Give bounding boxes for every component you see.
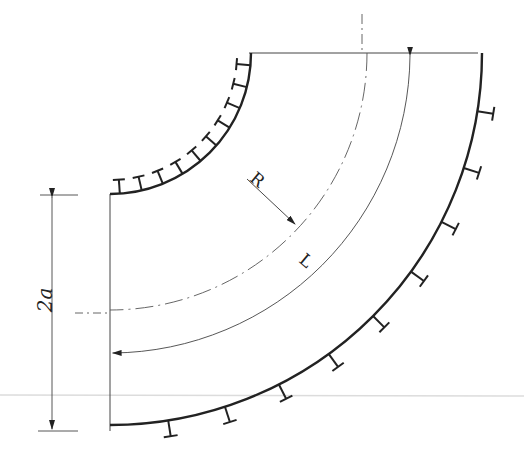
centerline-arc [110,53,367,310]
support-tick-bar [492,107,494,121]
support-tick-bar [280,396,292,402]
scan-artifact-line [0,395,524,396]
length-path-arc [113,56,410,353]
support-tick-stem [158,171,163,184]
outer-support-ticks [164,107,495,438]
support-tick-bar [453,223,459,235]
support-tick-bar [113,179,125,180]
support-tick-stem [373,316,384,327]
support-tick-bar [170,159,180,165]
support-tick-stem [192,150,201,161]
length-label: L [295,249,317,272]
support-tick-bar [236,58,237,70]
support-tick-stem [225,407,230,422]
support-tick-stem [218,120,230,127]
support-tick-stem [329,354,338,367]
support-tick-stem [237,64,251,65]
support-tick-bar [215,115,221,125]
outer-wall-arc [110,53,482,425]
support-tick-stem [175,162,182,174]
radius-label: R [246,168,270,192]
support-tick-stem [206,136,217,145]
support-tick-stem [411,272,424,281]
support-tick-bar [420,275,428,286]
support-tick-bar [133,175,145,178]
support-tick-stem [441,222,455,229]
support-tick-stem [233,84,247,87]
support-tick-stem [119,180,120,194]
support-tick-stem [477,111,493,114]
support-tick-stem [279,384,286,398]
support-tick-stem [139,177,142,191]
pipe-bend-drawing: R L 2a [0,0,524,469]
diagram-canvas: R L 2a [0,0,524,469]
support-tick-stem [464,168,479,173]
support-tick-stem [227,103,240,108]
support-tick-bar [164,435,178,437]
support-tick-stem [168,420,171,436]
width-label: 2a [33,288,57,314]
support-tick-bar [332,363,343,371]
inner-wall-arc [110,53,251,194]
support-tick-bar [232,78,235,90]
